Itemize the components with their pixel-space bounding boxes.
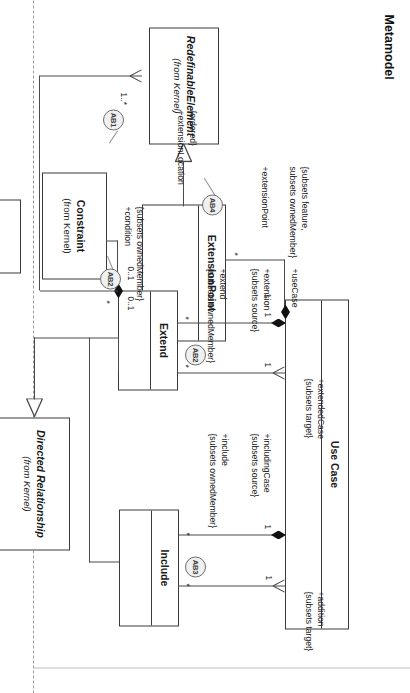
edge-usecase-include-addition: [179, 585, 285, 586]
class-extend-name: Extend: [150, 291, 177, 389]
edge-extend-extensionlocation-riser: [40, 290, 118, 291]
class-use-case-name: Use Case: [321, 300, 348, 628]
edge-generalization-trunk: [34, 337, 35, 399]
mult-condition-lo: 0..1: [126, 296, 136, 310]
edge-usecase-extensionpoint-drop: [226, 259, 285, 260]
label-extension-constraint: {subsets source}: [250, 268, 260, 332]
mult-extend-a: *: [181, 316, 191, 319]
mult-extend-owner: *: [102, 300, 112, 303]
class-include-name: Include: [151, 510, 178, 625]
label-usecase-role: +useCase: [290, 268, 300, 307]
arrowhead-extensionlocation: [130, 69, 142, 81]
mult-include-b: *: [182, 583, 192, 586]
label-extension-role: +extension: [262, 268, 272, 310]
label-include-constraint: {subsets ownedMember}: [208, 433, 218, 528]
edge-usecase-extensionpoint-stub: [284, 259, 285, 311]
label-extendedcase-role: +extendedCase: [316, 378, 326, 438]
arrowhead-extendedcase: [273, 366, 285, 378]
class-include[interactable]: Include: [119, 509, 179, 626]
mult-includingcase: 1: [263, 524, 273, 529]
label-addition-role: +addition: [316, 591, 326, 626]
label-extend-role: +extend: [218, 268, 228, 299]
edge-extend-to-generalization: [118, 337, 119, 371]
label-extensionlocation-role: +extensionLocation: [176, 110, 186, 184]
label-include-role: +include: [220, 433, 230, 465]
leader-ab4: [204, 177, 216, 195]
label-extend-constraint: {subsets ownedMember}: [206, 268, 216, 363]
edge-include-to-generalization: [89, 337, 90, 562]
mult-condition-hi: 0..1: [126, 266, 136, 280]
class-directed-relationship-label: Directed Relationship (from Kernel): [22, 430, 48, 538]
badge-ab3[interactable]: AB3: [185, 556, 206, 577]
badge-ab1[interactable]: AB1: [103, 109, 124, 130]
class-constraint-label: Constraint (from Kernel): [62, 198, 88, 253]
leader-ab1: [109, 130, 118, 143]
class-constraint[interactable]: Constraint (from Kernel): [42, 172, 107, 279]
badge-ab2-condition[interactable]: AB2: [100, 268, 121, 289]
label-extensionpoint-role: +extensionPoint: [260, 166, 270, 227]
label-condition-role: +condition: [123, 206, 133, 245]
edge-extensionlocation-run: [39, 75, 40, 290]
edge-usecase-include-includingcase: [179, 534, 285, 535]
edge-condition-drop: [106, 240, 118, 241]
label-extendedcase-constraint: {subsets target}: [304, 378, 314, 438]
edge-extensionlocation-into-extensionpoint: [40, 75, 142, 76]
badge-ab4[interactable]: AB4: [202, 194, 223, 215]
class-directed-relationship[interactable]: Directed Relationship (from Kernel): [0, 417, 70, 550]
mult-extension: 1: [263, 312, 273, 317]
label-usecase-constraint-line2: subsets ownedMember}: [288, 166, 298, 258]
label-includingcase-constraint: {subsets source}: [250, 433, 260, 497]
badge-ab2[interactable]: AB2: [185, 344, 206, 365]
class-use-case[interactable]: Use Case: [285, 299, 349, 629]
arrowhead-addition: [273, 579, 285, 591]
page-title: Metamodel: [382, 14, 396, 79]
composition-diamond-extension: [271, 318, 286, 327]
mult-extensionpoint-star: *: [230, 252, 240, 255]
label-usecase-constraint-line1: {subsets feature,: [300, 166, 310, 230]
label-condition-constraint: {subsets ownedMember}: [135, 206, 145, 301]
generalization-triangle-directed-rel: [26, 398, 43, 417]
clipped-partial-box: [0, 199, 21, 273]
composition-diamond-includingcase: [271, 530, 286, 539]
mult-usecase-one: 1: [263, 293, 273, 298]
edge-usecase-extend-extendedcase: [178, 372, 285, 373]
edge-include-riser: [89, 561, 119, 562]
mult-include-a: *: [182, 532, 192, 535]
edge-usecase-extend-extension: [178, 322, 285, 323]
mult-extendedcase: 1: [263, 362, 273, 367]
page-edge-line: [34, 667, 410, 668]
mult-addition: 1: [264, 575, 274, 580]
mult-extensionlocation: 1..*: [119, 92, 129, 105]
label-addition-constraint: {subsets target}: [304, 591, 314, 651]
edge-generalization-riser: [34, 337, 119, 338]
diagram-canvas: Metamodel RedefinableElement (from Kerne…: [0, 0, 410, 693]
label-includingcase-role: +includingCase: [262, 433, 272, 492]
label-extensionlocation-constraint: {ordered}: [188, 110, 198, 145]
mult-extend-b: *: [181, 364, 191, 367]
